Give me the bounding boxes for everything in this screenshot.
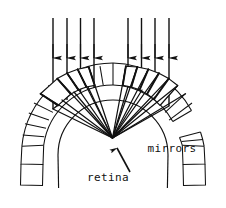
retina-arc-left-tail xyxy=(58,155,59,188)
mirror-lower-right-outline-2 xyxy=(183,164,206,186)
retina-arc-right-tail xyxy=(167,155,168,188)
mirror-facet-divider xyxy=(173,111,192,122)
mirror-lower-left-outline xyxy=(21,145,44,164)
mirror-facet-divider xyxy=(25,124,46,128)
mirror-facet-divider xyxy=(100,66,103,85)
mirror-facet-divider xyxy=(29,113,49,120)
mirror-facet-divider xyxy=(22,145,44,146)
optics-diagram: mirrors retina xyxy=(0,0,226,208)
retina-pointer-arrow xyxy=(117,148,130,172)
figure-canvas: mirrors retina xyxy=(0,0,226,208)
mirror-facet-divider xyxy=(34,103,53,112)
retina-label: retina xyxy=(87,171,129,184)
mirror-facet-divider xyxy=(180,132,201,138)
ray-arrowhead-group xyxy=(53,44,169,58)
reflected-ray xyxy=(89,67,113,138)
mirror-facet-divider xyxy=(23,135,45,137)
mirrors-label: mirrors xyxy=(147,142,196,155)
mirror-lower-left-outline-2 xyxy=(21,164,44,186)
